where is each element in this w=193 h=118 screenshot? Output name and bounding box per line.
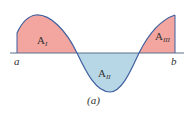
endpoint-a: a <box>14 55 20 67</box>
endpoint-b: b <box>171 55 177 67</box>
area-under-curve-diagram: AI AII AIII a b (a) <box>0 0 193 118</box>
caption: (a) <box>87 94 100 107</box>
